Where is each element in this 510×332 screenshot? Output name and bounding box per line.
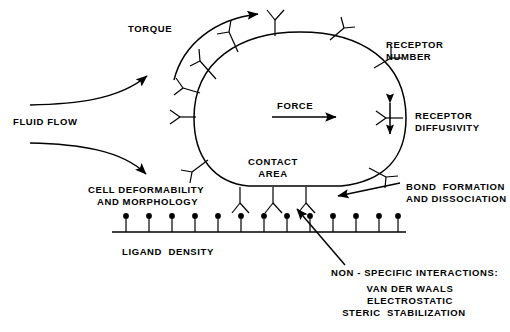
ligand-pin	[261, 213, 267, 232]
surface-receptor	[174, 78, 200, 95]
bound-receptor	[265, 187, 282, 213]
nonspecific-heading-label: NON - SPECIFIC INTERACTIONS:	[331, 267, 498, 280]
nonspecific-item2-label: ELECTROSTATIC	[331, 295, 489, 308]
torque-arrow	[174, 14, 258, 80]
ligand-pin	[284, 213, 290, 232]
ligand-pin	[353, 213, 359, 232]
bond-formation-label-line1: BOND FORMATION	[406, 181, 505, 194]
fluid-flow-label: FLUID FLOW	[13, 116, 78, 129]
fluid-flow-lower-arrow	[30, 143, 146, 174]
receptor-number-label-line1: RECEPTOR	[386, 39, 443, 52]
surface-receptor	[330, 17, 355, 40]
ligand-pin	[395, 213, 401, 232]
bound-receptor-group	[232, 187, 315, 213]
nonspecific-item1-label: VAN DER WAALS	[331, 283, 489, 296]
surface-receptor-left	[170, 110, 196, 124]
nonspecific-item3-label: STERIC STABILIZATION	[325, 307, 483, 320]
ligand-pin	[330, 213, 336, 232]
ligand-pin	[215, 213, 221, 232]
receptor-number-label-line2: NUMBER	[386, 51, 431, 64]
contact-area-label-line1: CONTACT	[233, 156, 313, 169]
surface-receptor	[190, 49, 216, 79]
cell-deformability-label-line1: CELL DEFORMABILITY	[88, 184, 204, 197]
ligand-pin	[376, 213, 382, 232]
torque-label: TORQUE	[128, 23, 172, 36]
surface-receptor	[267, 10, 284, 36]
contact-area-label-line2: AREA	[233, 168, 313, 181]
fluid-flow-upper-arrow	[30, 76, 147, 105]
receptor-diffusivity-label-line2: DIFFUSIVITY	[415, 122, 480, 135]
surface-receptor	[181, 160, 208, 183]
bond-formation-label-line2: AND DISSOCIATION	[406, 193, 507, 206]
ligand-pin	[146, 213, 152, 232]
ligand-pin	[169, 213, 175, 232]
bound-receptor	[232, 187, 249, 213]
ligand-pin	[123, 213, 129, 232]
receptor-diffusivity-label-line1: RECEPTOR	[415, 110, 472, 123]
nonspecific-interactions-pointer	[297, 209, 345, 265]
bound-receptor	[298, 187, 315, 213]
ligand-density-label: LIGAND DENSITY	[122, 246, 214, 259]
ligand-pin-group	[123, 213, 401, 232]
cell-adhesion-diagram: TORQUE FLUID FLOW FORCE RECEPTOR NUMBER …	[0, 0, 510, 332]
force-label: FORCE	[277, 100, 313, 113]
ligand-pin	[192, 213, 198, 232]
ligand-pin	[238, 213, 244, 232]
cell-deformability-label-line2: AND MORPHOLOGY	[97, 196, 198, 209]
